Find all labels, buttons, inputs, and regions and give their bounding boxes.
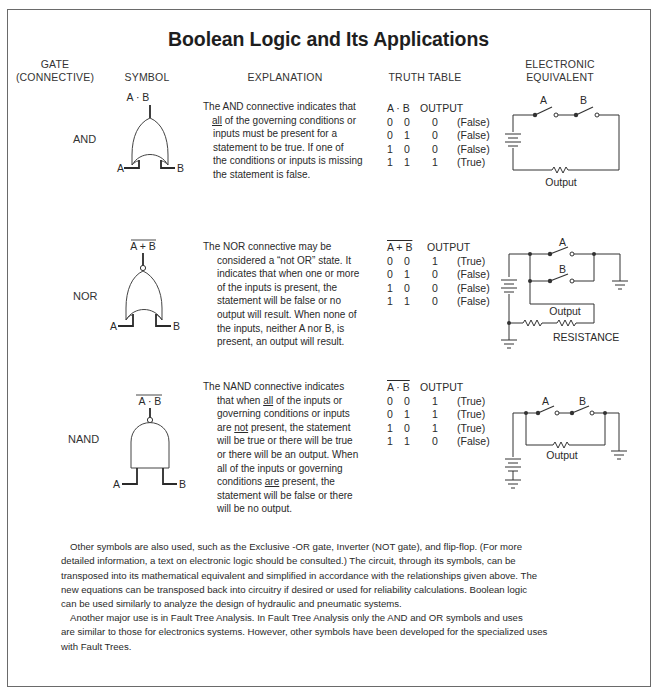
- and-input-b-label: B: [177, 162, 184, 174]
- nor-input-a-label: A: [110, 320, 117, 332]
- nor-expl-line: the inputs, neither A nor B, is: [203, 322, 359, 336]
- header-gate-line2: (CONNECTIVE): [16, 71, 94, 83]
- nand-expl-line: or there will be an output. When: [203, 448, 358, 462]
- and-gate-symbol: A · B A B: [100, 85, 200, 195]
- and-tt-row: 111(True): [387, 156, 497, 170]
- nor-explanation: The NOR connective may be considered a “…: [203, 240, 359, 349]
- nand-input-a-label: A: [113, 478, 120, 490]
- nor-tt-header-expr: A + B: [387, 241, 412, 253]
- nor-expl-line: output will result. When none of: [203, 308, 359, 322]
- nor-switch-a-label: A: [559, 236, 566, 248]
- nor-output-label: Output: [549, 305, 581, 317]
- nor-gate-symbol: A + B A B: [100, 228, 200, 338]
- nor-tt-row: 010(False): [387, 268, 497, 282]
- nand-expl-line: that when all of the inputs or: [203, 394, 358, 408]
- nand-truth-table: A · BOUTPUT 001(True) 011(True) 101(True…: [387, 381, 497, 449]
- nor-switch-b-label: B: [559, 263, 566, 275]
- header-explanation: EXPLANATION: [210, 71, 360, 84]
- and-expl-line: inputs must be present for a: [203, 127, 363, 141]
- nand-tt-row: 110(False): [387, 435, 497, 449]
- paragraph-line: transposed into its mathematical equival…: [61, 569, 537, 583]
- and-tt-row: 010(False): [387, 129, 497, 143]
- nand-output-label: Output: [546, 449, 578, 461]
- nor-expl-line: statement will be false or no: [203, 294, 359, 308]
- nand-tt-header-expr: A · B: [387, 381, 410, 393]
- nor-expl-line: indicates that when one or more: [203, 267, 359, 281]
- nand-expl-emphasis: are: [265, 476, 279, 487]
- and-expl-emphasis: all: [212, 115, 222, 126]
- paragraph-line: detailed information, a text on electron…: [61, 554, 537, 568]
- nand-expl-line: The NAND connective indicates: [203, 380, 358, 394]
- nand-expl-line: statement will be false or there: [203, 489, 358, 503]
- header-electronic-equivalent: ELECTRONIC EQUIVALENT: [500, 58, 620, 84]
- gate-name-and: AND: [73, 133, 96, 145]
- and-tt-header-output: OUTPUT: [420, 102, 463, 114]
- nor-expl-line: present, an output will result.: [203, 335, 359, 349]
- nor-expl-line: considered a “not OR” state. It: [203, 254, 359, 268]
- nand-switch-a-label: A: [542, 395, 549, 407]
- header-gate-line1: GATE: [41, 58, 70, 70]
- nand-circuit-diagram: A B Output: [495, 385, 645, 505]
- and-expl-line: the conditions or inputs is missing: [203, 154, 363, 168]
- nand-expl-line: will be no output.: [203, 502, 358, 516]
- and-tt-row: 100(False): [387, 143, 497, 157]
- and-switch-a-label: A: [540, 94, 547, 106]
- and-expl-line: statement to be true. If one of: [203, 141, 363, 155]
- nor-tt-row: 110(False): [387, 295, 497, 309]
- and-switch-b-label: B: [580, 94, 587, 106]
- nand-tt-header-output: OUTPUT: [420, 381, 463, 393]
- nand-tt-row: 101(True): [387, 422, 497, 436]
- nand-tt-row: 001(True): [387, 395, 497, 409]
- paragraph-line: Another major use is in Fault Tree Analy…: [61, 611, 547, 625]
- nand-expl-line: governing conditions or inputs: [203, 407, 358, 421]
- paragraph-line: are similar to those for electronics sys…: [61, 625, 547, 639]
- nor-tt-row: 100(False): [387, 282, 497, 296]
- nor-resistance-label: RESISTANCE: [553, 331, 619, 343]
- header-gate: GATE (CONNECTIVE): [8, 58, 102, 84]
- nand-expl-line: are not present, the statement: [203, 421, 358, 435]
- nand-gate-symbol: A · B A B: [100, 390, 200, 500]
- header-electronic-line2: EQUIVALENT: [526, 71, 594, 83]
- gate-name-nand: NAND: [68, 433, 99, 445]
- nor-tt-header-output: OUTPUT: [427, 241, 470, 253]
- paragraph-line: can be used similarly to analyze the des…: [61, 597, 537, 611]
- nand-switch-b-label: B: [579, 395, 586, 407]
- nand-expl-line: will be true or there will be true: [203, 434, 358, 448]
- nand-input-b-label: B: [179, 478, 186, 490]
- paragraph-other-symbols: Other symbols are also used, such as the…: [61, 540, 537, 611]
- nor-truth-table: A + BOUTPUT 001(True) 010(False) 100(Fal…: [387, 241, 497, 309]
- and-input-a-label: A: [117, 162, 124, 174]
- and-output-label: Output: [545, 176, 577, 188]
- nand-expl-line: conditions are present, the: [203, 475, 358, 489]
- nor-symbol-output-label: A + B: [130, 240, 155, 252]
- page-title: Boolean Logic and Its Applications: [0, 28, 657, 51]
- nand-expl-line: all of the inputs or governing: [203, 462, 358, 476]
- nor-circuit-diagram: A B Output RESISTANCE: [495, 225, 645, 365]
- and-expl-text: of the governing conditions or: [222, 115, 356, 126]
- paragraph-fault-tree: Another major use is in Fault Tree Analy…: [61, 611, 547, 654]
- and-explanation: The AND connective indicates that all of…: [203, 100, 363, 182]
- and-circuit-diagram: A B Output: [495, 90, 635, 190]
- header-symbol: SYMBOL: [112, 71, 182, 84]
- nand-tt-row: 011(True): [387, 408, 497, 422]
- nor-tt-row: 001(True): [387, 255, 497, 269]
- header-truth-table: TRUTH TABLE: [370, 71, 480, 84]
- nand-expl-emphasis: all: [263, 395, 273, 406]
- nand-explanation: The NAND connective indicates that when …: [203, 380, 358, 516]
- and-tt-header-expr: A · B: [387, 102, 410, 114]
- paragraph-line: new equations can be transposed back int…: [61, 583, 537, 597]
- and-truth-table: A · BOUTPUT 000(False) 010(False) 100(Fa…: [387, 102, 497, 170]
- nand-expl-emphasis: not: [234, 422, 248, 433]
- nor-input-b-label: B: [173, 320, 180, 332]
- and-expl-line: the statement is false.: [203, 168, 363, 182]
- gate-name-nor: NOR: [73, 290, 97, 302]
- and-symbol-output-label: A · B: [127, 91, 150, 103]
- nor-expl-line: The NOR connective may be: [203, 240, 359, 254]
- header-electronic-line1: ELECTRONIC: [525, 58, 595, 70]
- paragraph-line: Other symbols are also used, such as the…: [61, 540, 537, 554]
- and-tt-row: 000(False): [387, 116, 497, 130]
- paragraph-line: with Fault Trees.: [61, 640, 547, 654]
- and-expl-line: The AND connective indicates that: [203, 100, 363, 114]
- nor-expl-line: of the inputs is present, the: [203, 281, 359, 295]
- and-expl-line: all of the governing conditions or: [203, 114, 363, 128]
